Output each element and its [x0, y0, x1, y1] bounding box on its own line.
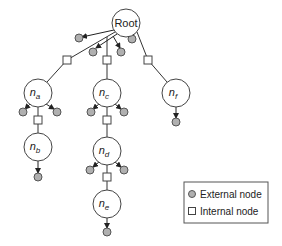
legend-external-label: External node [200, 189, 262, 200]
node-root: Root [112, 9, 140, 37]
internal-node [63, 56, 71, 64]
legend-internal-label: Internal node [200, 206, 259, 217]
external-node [34, 173, 42, 181]
internal-node [103, 116, 111, 124]
external-node [103, 228, 111, 236]
external-node [120, 108, 128, 116]
node-nf: nf [162, 79, 190, 107]
node-ne: ne [93, 190, 121, 218]
external-node [75, 34, 83, 42]
internal-node [103, 56, 111, 64]
external-node-icon [189, 191, 196, 198]
external-node [53, 108, 61, 116]
internal-node [34, 116, 42, 124]
external-node [120, 166, 128, 174]
internal-node [144, 56, 152, 64]
external-node [87, 108, 95, 116]
internal-node [103, 173, 111, 181]
node-na: na [24, 79, 52, 107]
tree-diagram: Root na nb nc nd ne nf External node Int… [0, 0, 282, 246]
external-node [172, 118, 180, 126]
external-node [19, 108, 27, 116]
legend: External node Internal node [184, 182, 268, 223]
external-node [89, 48, 97, 56]
node-label: Root [114, 17, 137, 29]
external-node [117, 48, 125, 56]
internal-nodes [34, 56, 152, 181]
internal-node-icon [189, 208, 196, 215]
node-nd: nd [93, 137, 121, 165]
external-node [86, 166, 94, 174]
node-nb: nb [24, 133, 52, 161]
node-nc: nc [93, 79, 121, 107]
